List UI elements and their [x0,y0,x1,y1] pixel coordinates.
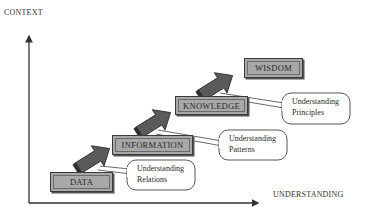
stage-label-knowledge: KNOWLEDGE [183,101,240,111]
stage-box-information: INFORMATION [112,135,193,155]
callout-principles-line1: Understanding [292,97,339,108]
callout-patterns-line2: Patterns [229,145,276,156]
stage-box-knowledge: KNOWLEDGE [175,96,248,115]
stage-label-wisdom: WISDOM [255,63,292,73]
stage-label-data: DATA [70,177,93,187]
callout-principles: Understanding Principles [292,97,339,118]
stage-box-data: DATA [50,172,113,192]
callout-patterns: Understanding Patterns [229,134,276,155]
callout-relations-line2: Relations [137,175,184,186]
y-axis-label: CONTEXT [4,8,43,17]
stage-box-wisdom: WISDOM [244,58,303,78]
callout-patterns-line1: Understanding [229,134,276,145]
callout-relations: Understanding Relations [137,164,184,185]
x-axis-label: UNDERSTANDING [273,190,343,199]
stage-label-information: INFORMATION [122,140,184,150]
callout-principles-line2: Principles [292,108,339,119]
callout-relations-line1: Understanding [137,164,184,175]
